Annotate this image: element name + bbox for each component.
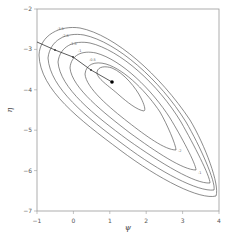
contour-lines — [39, 27, 217, 196]
x-tick-label: 3 — [181, 217, 185, 224]
x-tick-label: 0 — [71, 217, 75, 224]
y-tick-label: −4 — [23, 86, 32, 93]
y-tick-label: −5 — [23, 126, 32, 133]
contour-label: -2.5 — [62, 34, 69, 38]
plot-frame — [37, 9, 219, 211]
contour-label: -3.5 — [57, 27, 64, 31]
y-tick-label: −3 — [23, 45, 32, 52]
x-axis-ticks — [37, 211, 219, 214]
x-tick-label: 2 — [144, 217, 148, 224]
y-tick-label: −7 — [23, 207, 32, 214]
contour-label: -0.5 — [89, 58, 96, 62]
contour-level-3 — [58, 42, 210, 183]
contour-label: -2 — [178, 149, 182, 153]
contour-level-6 — [97, 67, 145, 111]
contour-level-1 — [39, 27, 217, 196]
y-axis-label: η — [5, 107, 14, 112]
contour-label: -1.5 — [70, 42, 77, 46]
contour-labels: -3.5 -2.5 -1.5 -1 -0.5 -2 -1 — [57, 27, 202, 175]
y-axis-tick-labels: −2−3−4−5−6−7 — [23, 5, 32, 214]
x-tick-label: 4 — [217, 217, 221, 224]
contour-label: -1 — [198, 171, 202, 175]
maximum-point — [110, 80, 114, 84]
x-tick-label: 1 — [108, 217, 112, 224]
x-axis-label: ψ — [125, 223, 132, 232]
y-tick-label: −2 — [23, 5, 32, 12]
contour-label: -1 — [78, 49, 82, 53]
y-tick-label: −6 — [23, 167, 32, 174]
y-axis-ticks — [34, 9, 37, 211]
x-tick-label: −1 — [33, 217, 42, 224]
contour-chart: -3.5 -2.5 -1.5 -1 -0.5 -2 -1 −2−3−4−5−6−… — [0, 0, 229, 234]
